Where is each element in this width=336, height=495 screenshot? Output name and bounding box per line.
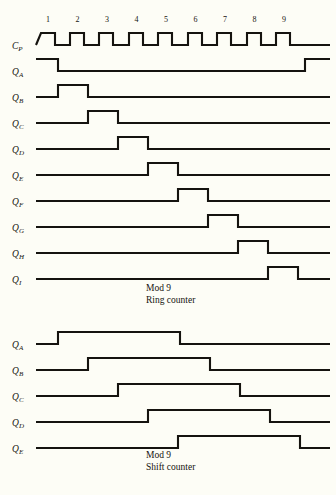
cycle-number-3: 3: [105, 15, 109, 24]
waveform-QE: [36, 436, 330, 448]
signal-label-QB: QB: [12, 366, 24, 379]
caption-counter-type: Ring counter: [146, 295, 196, 305]
waveform-QB: [36, 358, 330, 370]
waveform-QA: [36, 59, 330, 71]
signal-label-QB: QB: [12, 93, 24, 106]
cycle-number-4: 4: [135, 15, 139, 24]
signal-label-QA: QA: [12, 67, 24, 80]
caption-modulus: Mod 9: [146, 450, 171, 460]
cycle-number-9: 9: [282, 15, 286, 24]
cycle-number-1: 1: [46, 15, 50, 24]
shift-counter-waveform-canvas: QAQBQCQDQEMod 9Shift counter: [0, 310, 336, 495]
signal-label-QF: QF: [12, 197, 24, 210]
cycle-number-7: 7: [223, 15, 227, 24]
ring-counter-waveform-canvas: 123456789CPQAQBQCQDQEQFQGQHQIMod 9Ring c…: [0, 0, 336, 310]
timing-diagram-page: 123456789CPQAQBQCQDQEQFQGQHQIMod 9Ring c…: [0, 0, 336, 495]
waveform-QH: [36, 241, 330, 253]
waveform-QD: [36, 410, 330, 422]
cycle-number-2: 2: [76, 15, 80, 24]
waveform-QC: [36, 111, 330, 123]
signal-label-QH: QH: [12, 249, 25, 262]
signal-label-QC: QC: [12, 119, 24, 132]
signal-label-QD: QD: [12, 145, 24, 158]
figure-shift-counter: QAQBQCQDQEMod 9Shift counter: [0, 310, 336, 495]
signal-label-QA: QA: [12, 340, 24, 353]
waveform-QI: [36, 267, 330, 279]
caption-counter-type: Shift counter: [146, 462, 196, 472]
signal-label-QC: QC: [12, 392, 24, 405]
signal-label-QG: QG: [12, 223, 24, 236]
waveform-QF: [36, 189, 330, 201]
signal-label-QE: QE: [12, 444, 24, 457]
caption-modulus: Mod 9: [146, 283, 171, 293]
waveform-QD: [36, 137, 330, 149]
waveform-CP: [36, 33, 330, 45]
signal-label-QI: QI: [12, 275, 22, 288]
signal-label-CP: CP: [12, 41, 23, 54]
figure-ring-counter: 123456789CPQAQBQCQDQEQFQGQHQIMod 9Ring c…: [0, 0, 336, 310]
cycle-number-5: 5: [164, 15, 168, 24]
signal-label-QE: QE: [12, 171, 24, 184]
cycle-number-6: 6: [194, 15, 198, 24]
cycle-number-8: 8: [253, 15, 257, 24]
waveform-QE: [36, 163, 330, 175]
waveform-QA: [36, 332, 330, 344]
waveform-QB: [36, 85, 330, 97]
signal-label-QD: QD: [12, 418, 24, 431]
waveform-QG: [36, 215, 330, 227]
waveform-QC: [36, 384, 330, 396]
